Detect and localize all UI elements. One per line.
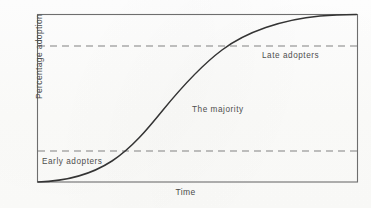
annotation-late-adopters: Late adopters <box>262 51 319 60</box>
x-axis-title: Time <box>0 187 371 197</box>
plot-canvas <box>0 0 371 208</box>
annotation-the-majority: The majority <box>192 105 244 114</box>
y-axis-title: Percentage adoption <box>34 14 44 99</box>
adoption-curve-figure: Percentage adoption Time Early adopters … <box>0 0 371 208</box>
annotation-early-adopters: Early adopters <box>42 157 103 166</box>
